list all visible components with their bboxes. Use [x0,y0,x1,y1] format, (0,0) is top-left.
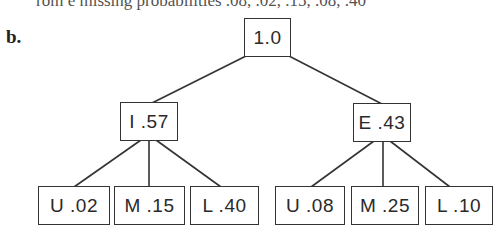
edge-root-e [289,56,382,104]
node-i: I .57 [120,102,178,141]
leaf-i-u: U .02 [38,186,110,225]
edge-e-l [390,141,450,187]
edge-i-l [156,140,221,187]
node-e: E .43 [353,103,411,142]
leaf-e-l: L .10 [425,186,493,225]
leaf-i-m: M .15 [114,186,185,225]
edge-i-u [74,140,141,187]
edge-e-u [311,141,374,187]
edge-root-i [152,56,246,103]
leaf-i-l: L .40 [190,186,259,225]
leaf-e-u: U .08 [275,186,345,225]
root-node: 1.0 [244,18,291,57]
leaf-e-m: M .25 [351,186,419,225]
